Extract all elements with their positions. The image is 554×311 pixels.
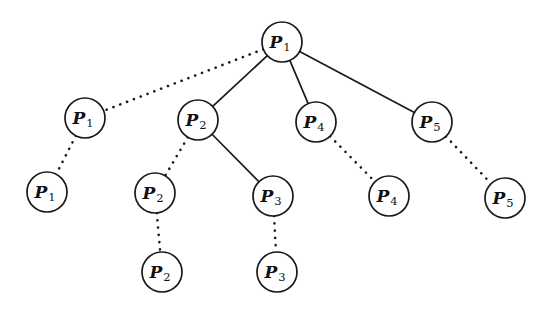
tree-edge-dotted: [157, 213, 160, 252]
node-label-subscript: 2: [163, 270, 170, 284]
node-label-letter: P: [302, 112, 317, 132]
node-label-subscript: 3: [278, 270, 285, 284]
node-label-subscript: 5: [433, 120, 440, 134]
tree-node[interactable]: P4: [296, 102, 336, 142]
node-label-letter: P: [263, 262, 278, 282]
tree-edge-solid: [212, 134, 259, 182]
node-label-subscript: 3: [274, 194, 281, 208]
node-label-letter: P: [375, 186, 390, 206]
node-label-subscript: 1: [48, 190, 55, 204]
edges-layer: [56, 49, 491, 252]
tree-node[interactable]: P1: [27, 172, 67, 212]
tree-edge-dotted: [165, 137, 188, 176]
node-label-subscript: 5: [506, 196, 513, 210]
node-label-letter: P: [491, 188, 506, 208]
tree-edge-solid: [213, 56, 268, 107]
tree-node[interactable]: P1: [65, 98, 105, 138]
node-label-letter: P: [71, 108, 86, 128]
node-label-letter: P: [259, 186, 274, 206]
tree-node[interactable]: P4: [369, 176, 409, 216]
nodes-layer: P1P1P2P4P5P1P2P3P4P5P2P3: [27, 22, 525, 292]
node-label-letter: P: [33, 182, 48, 202]
tree-edge-dotted: [56, 136, 76, 174]
tree-node[interactable]: P2: [135, 173, 175, 213]
node-label-subscript: 1: [283, 40, 290, 54]
node-label-letter: P: [418, 112, 433, 132]
node-label-subscript: 4: [317, 120, 324, 134]
tree-edge-dotted: [104, 49, 264, 111]
node-label-letter: P: [184, 110, 199, 130]
node-label-subscript: 2: [156, 191, 163, 205]
tree-diagram-figure: P1P1P2P4P5P1P2P3P4P5P2P3: [0, 0, 554, 311]
tree-node[interactable]: P3: [257, 252, 297, 292]
node-label-subscript: 1: [86, 116, 93, 130]
tree-edge-dotted: [446, 136, 491, 183]
tree-edge-dotted: [330, 136, 375, 182]
tree-diagram-canvas: P1P1P2P4P5P1P2P3P4P5P2P3: [0, 0, 554, 311]
tree-node[interactable]: P3: [253, 176, 293, 216]
tree-node[interactable]: P5: [485, 178, 525, 218]
tree-node[interactable]: P1: [262, 22, 302, 62]
tree-node[interactable]: P2: [142, 252, 182, 292]
node-label-subscript: 2: [199, 118, 206, 132]
node-label-letter: P: [148, 262, 163, 282]
node-label-subscript: 4: [390, 194, 397, 208]
tree-edge-dotted: [274, 216, 276, 252]
tree-node[interactable]: P5: [412, 102, 452, 142]
node-label-letter: P: [268, 32, 283, 52]
tree-edge-solid: [290, 60, 308, 103]
node-label-letter: P: [141, 183, 156, 203]
tree-node[interactable]: P2: [178, 100, 218, 140]
